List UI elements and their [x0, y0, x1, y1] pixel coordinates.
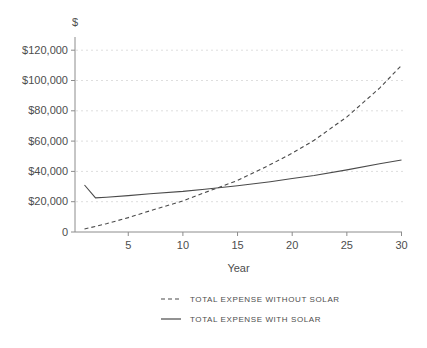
x-axis-tick-label: 10: [177, 239, 189, 251]
y-axis-tick-label: $100,000: [22, 74, 68, 86]
x-axis-tick-label: 30: [395, 239, 407, 251]
expense-chart-svg: 0$20,000$40,000$60,000$80,000$100,000$12…: [0, 0, 427, 290]
solid-line-swatch: [161, 316, 181, 322]
x-axis-tick-label: 25: [341, 239, 353, 251]
legend-item-with-solar: TOTAL EXPENSE WITH SOLAR: [161, 314, 340, 324]
x-axis-tick-label: 20: [286, 239, 298, 251]
legend-label-without-solar: TOTAL EXPENSE WITHOUT SOLAR: [190, 295, 340, 304]
y-axis-tick-label: $40,000: [28, 165, 68, 177]
y-axis-tick-label: $120,000: [22, 44, 68, 56]
series-line-with-solar: [85, 160, 402, 198]
x-axis-tick-label: 5: [125, 239, 131, 251]
solar-expense-chart: 0$20,000$40,000$60,000$80,000$100,000$12…: [0, 0, 427, 348]
y-axis-tick-label: $20,000: [28, 195, 68, 207]
y-axis-tick-label: $80,000: [28, 104, 68, 116]
series-line-without-solar: [85, 65, 402, 229]
y-axis-tick-label: 0: [62, 226, 68, 238]
x-axis-title: Year: [227, 262, 250, 274]
legend-item-without-solar: TOTAL EXPENSE WITHOUT SOLAR: [161, 294, 340, 304]
chart-legend: TOTAL EXPENSE WITHOUT SOLAR TOTAL EXPENS…: [161, 294, 340, 334]
dashed-line-swatch: [161, 296, 181, 302]
y-axis-tick-label: $60,000: [28, 135, 68, 147]
y-axis-title: $: [72, 16, 78, 28]
x-axis-tick-label: 15: [231, 239, 243, 251]
legend-label-with-solar: TOTAL EXPENSE WITH SOLAR: [190, 315, 321, 324]
